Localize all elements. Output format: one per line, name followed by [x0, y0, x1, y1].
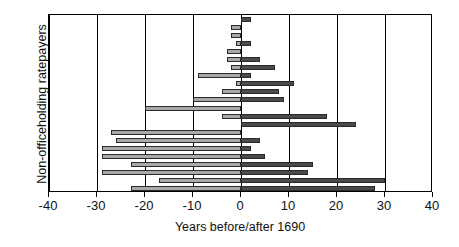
bar-segment-positive [241, 114, 327, 119]
x-tick-40 [432, 192, 433, 197]
bar-row [49, 81, 431, 86]
bar-segment-positive [241, 97, 284, 102]
x-axis-title: Years before/after 1690 [48, 220, 432, 234]
bar-segment-positive [241, 138, 260, 143]
bar-segment-negative [102, 170, 241, 175]
bar-segment-positive [241, 73, 251, 78]
plot-area [48, 14, 432, 192]
bar-segment-positive [241, 122, 356, 127]
bar-segment-negative [231, 65, 241, 70]
x-tick-label-30: 30 [364, 198, 404, 213]
bar-segment-positive [241, 17, 251, 22]
bar-segment-positive [241, 178, 385, 183]
bar-row [49, 33, 431, 38]
bar-segment-negative [102, 146, 241, 151]
x-tick-10 [288, 192, 289, 197]
x-tick-label--40: -40 [28, 198, 68, 213]
x-axis-tick-labels: -40-30-20-10010203040 [0, 198, 459, 216]
x-tick-label-20: 20 [316, 198, 356, 213]
bar-row [49, 130, 431, 135]
bar-row [49, 97, 431, 102]
bar-segment-negative [198, 73, 241, 78]
x-tick--10 [192, 192, 193, 197]
bar-segment-negative [231, 25, 241, 30]
bar-row [49, 49, 431, 54]
bar-segment-negative [193, 97, 241, 102]
bar-segment-positive [241, 146, 251, 151]
x-tick-30 [384, 192, 385, 197]
bar-segment-negative [227, 57, 241, 62]
bar-row [49, 57, 431, 62]
bar-segment-negative [222, 89, 241, 94]
bar-segment-positive [241, 170, 308, 175]
bar-row [49, 73, 431, 78]
x-tick--30 [96, 192, 97, 197]
bar-row [49, 41, 431, 46]
bar-row [49, 25, 431, 30]
bar-segment-negative [116, 138, 241, 143]
bar-chart: Non-officeholding ratepayers -40-30-20-1… [0, 0, 459, 247]
bar-segment-negative [102, 154, 241, 159]
bar-segment-negative [231, 33, 241, 38]
bar-segment-negative [131, 162, 241, 167]
bar-row [49, 17, 431, 22]
bar-row [49, 122, 431, 127]
bar-segment-negative [159, 178, 241, 183]
bar-segment-positive [241, 41, 251, 46]
bar-segment-negative [227, 49, 241, 54]
bar-row [49, 162, 431, 167]
x-tick-label-40: 40 [412, 198, 452, 213]
bar-segment-negative [131, 186, 241, 191]
bar-segment-positive [241, 89, 279, 94]
bar-series [49, 15, 431, 191]
x-tick-label--10: -10 [172, 198, 212, 213]
bar-segment-positive [241, 57, 260, 62]
bar-segment-negative [145, 106, 241, 111]
x-tick-0 [240, 192, 241, 197]
bar-segment-positive [241, 162, 313, 167]
bar-row [49, 146, 431, 151]
bar-row [49, 154, 431, 159]
bar-segment-positive [241, 186, 375, 191]
bar-row [49, 138, 431, 143]
x-tick-20 [336, 192, 337, 197]
bar-segment-negative [222, 114, 241, 119]
bar-segment-positive [241, 81, 294, 86]
bar-segment-positive [241, 154, 265, 159]
bar-row [49, 106, 431, 111]
x-tick-label-0: 0 [220, 198, 260, 213]
x-tick-label-10: 10 [268, 198, 308, 213]
x-tick--40 [48, 192, 49, 197]
x-tick-label--20: -20 [124, 198, 164, 213]
bar-row [49, 178, 431, 183]
bar-row [49, 65, 431, 70]
x-tick-label--30: -30 [76, 198, 116, 213]
x-tick--20 [144, 192, 145, 197]
bar-segment-negative [111, 130, 241, 135]
bar-segment-positive [241, 65, 275, 70]
bar-row [49, 186, 431, 191]
bar-row [49, 114, 431, 119]
bar-row [49, 170, 431, 175]
bar-row [49, 89, 431, 94]
